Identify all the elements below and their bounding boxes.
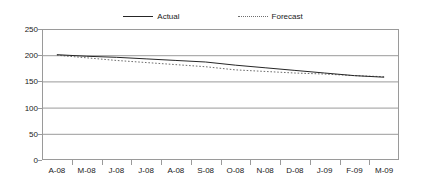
x-axis-tick-mark	[310, 160, 311, 165]
y-axis-tick-label: 150	[0, 77, 38, 86]
x-axis-tick-mark	[191, 160, 192, 165]
y-axis-tick-label: 250	[0, 25, 38, 34]
y-axis-tick-label: 200	[0, 51, 38, 60]
x-axis-tick-label: O-08	[226, 166, 244, 176]
y-axis-tick-label: 0	[0, 156, 38, 165]
x-axis-tick-mark	[280, 160, 281, 165]
gridlines	[42, 56, 399, 135]
y-axis-tick-label: 50	[0, 129, 38, 138]
x-axis-tick-mark	[221, 160, 222, 165]
x-axis-tick-label: S-08	[197, 166, 214, 176]
x-axis-tick-mark	[369, 160, 370, 165]
x-axis-tick-label: M-09	[375, 166, 393, 176]
x-axis-tick-mark	[340, 160, 341, 165]
x-axis: A-08M-08J-08J-08A-08S-08O-08N-08D-08J-09…	[42, 166, 399, 180]
x-axis-tick-label: N-08	[256, 166, 273, 176]
legend-item-forecast: Forecast	[238, 12, 303, 21]
x-axis-tick-label: M-08	[78, 166, 96, 176]
x-axis-tick-mark	[250, 160, 251, 165]
legend-line-solid-icon	[123, 13, 153, 20]
plot-canvas	[42, 29, 399, 160]
x-axis-tick-label: A-08	[48, 166, 65, 176]
x-axis-tick-mark	[72, 160, 73, 165]
x-axis-tick-label: J-09	[317, 166, 333, 176]
x-axis-tick-label: F-09	[346, 166, 362, 176]
x-axis-tick-label: J-08	[138, 166, 154, 176]
chart-legend: Actual Forecast	[0, 8, 426, 24]
series-line-actual	[57, 55, 384, 78]
line-chart: Actual Forecast 050100150200250 A-08M-08…	[0, 0, 426, 191]
x-axis-tick-label: A-08	[167, 166, 184, 176]
x-axis-tick-mark	[161, 160, 162, 165]
y-axis-tick-mark	[38, 160, 42, 161]
x-axis-tick-label: J-08	[109, 166, 125, 176]
y-axis-tick-label: 100	[0, 103, 38, 112]
legend-label-actual: Actual	[157, 12, 179, 21]
legend-line-dotted-icon	[238, 13, 268, 20]
x-axis-tick-mark	[131, 160, 132, 165]
y-axis: 050100150200250	[0, 29, 38, 160]
x-axis-tick-label: D-08	[286, 166, 303, 176]
legend-item-actual: Actual	[123, 12, 179, 21]
legend-label-forecast: Forecast	[272, 12, 303, 21]
plot-area	[42, 29, 399, 160]
x-axis-tick-mark	[102, 160, 103, 165]
